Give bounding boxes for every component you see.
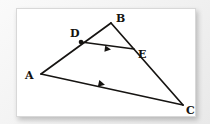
- vertex-label-d: D: [70, 27, 80, 40]
- page-background: A B C D E: [0, 0, 210, 124]
- vertex-label-c: C: [186, 104, 195, 117]
- vertex-label-e: E: [138, 48, 146, 61]
- vertex-label-b: B: [116, 12, 125, 25]
- figure-card: A B C D E: [16, 8, 196, 117]
- segment-AC: [41, 74, 183, 105]
- point-marker-d: [79, 40, 84, 45]
- segment-BC: [111, 23, 183, 105]
- vertex-label-a: A: [24, 69, 34, 82]
- geometry-diagram: A B C D E: [17, 9, 196, 117]
